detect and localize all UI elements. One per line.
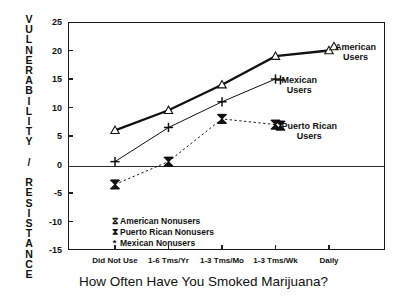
- series-label-line1: American: [335, 42, 376, 52]
- legend-item: ⧖American Nonusers: [109, 216, 214, 227]
- y-tick-mark: [68, 78, 73, 79]
- x-tick-mark: [221, 245, 222, 250]
- y-title-char: Y: [25, 136, 32, 146]
- hourglass-open-icon: ⧖: [109, 216, 120, 227]
- x-axis-title: How Often Have You Smoked Marijuana?: [0, 274, 407, 289]
- legend-item-label: Mexican Nonusers: [120, 238, 195, 249]
- y-tick-mark: [68, 135, 73, 136]
- x-tick-label: 1-3 Tms/Wk: [253, 256, 297, 265]
- x-tick-label: Did Not Use: [92, 256, 137, 265]
- series-label-line1: Mexican: [282, 75, 318, 85]
- zero-reference-line: [69, 166, 384, 167]
- y-tick-label: 25: [36, 17, 62, 27]
- legend-item-label: American Nonusers: [120, 216, 200, 227]
- x-tick-label: 1-6 Tms/Yr: [148, 256, 189, 265]
- legend-item: ⧗Puerto Rican Nonusers: [109, 227, 214, 238]
- series-label-american: AmericanUsers: [335, 42, 376, 62]
- x-tick-mark: [275, 245, 276, 250]
- asterisk-icon: *: [109, 238, 120, 249]
- x-tick-label: Daily: [319, 256, 338, 265]
- y-title-char: /: [28, 157, 31, 167]
- y-tick-mark: [68, 221, 73, 222]
- series-label-line2: Users: [335, 52, 376, 62]
- legend-item-label: Puerto Rican Nonusers: [120, 227, 214, 238]
- x-tick-label: 1-3 Tms/Mo: [200, 256, 244, 265]
- y-tick-mark: [68, 192, 73, 193]
- y-tick-label: 10: [36, 103, 62, 113]
- y-tick-label: -15: [36, 245, 62, 255]
- y-tick-label: 15: [36, 74, 62, 84]
- hourglass-icon: ⧗: [109, 227, 120, 238]
- series-label-line2: Users: [282, 85, 318, 95]
- nonusers-legend: ⧖American Nonusers⧗Puerto Rican Nonusers…: [109, 216, 214, 249]
- series-label-line2: Users: [282, 131, 338, 141]
- y-tick-label: 5: [36, 131, 62, 141]
- series-label-line1: Puerto Rican: [282, 121, 338, 131]
- legend-item: *Mexican Nonusers: [109, 238, 214, 249]
- y-tick-mark: [68, 50, 73, 51]
- x-tick-mark: [328, 245, 329, 250]
- y-tick-label: -5: [36, 188, 62, 198]
- chart-figure: VULNERABILITY/RESISTANCE 2520151050-5-10…: [0, 0, 407, 305]
- series-label-mexican: MexicanUsers: [282, 75, 318, 95]
- y-tick-label: -10: [36, 217, 62, 227]
- series-label-puerto-rican: Puerto RicanUsers: [282, 121, 338, 141]
- y-tick-label: 20: [36, 46, 62, 56]
- y-tick-label: 0: [36, 160, 62, 170]
- y-tick-mark: [68, 107, 73, 108]
